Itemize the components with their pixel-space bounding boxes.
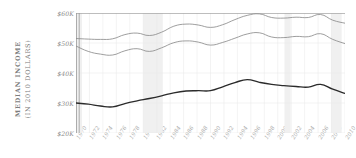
x-axis-tick: 2010 — [344, 124, 356, 139]
line-chart-svg — [76, 13, 345, 133]
plot-area — [76, 13, 345, 133]
